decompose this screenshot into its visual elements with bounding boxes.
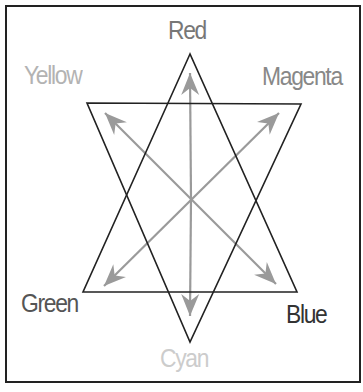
- label-cyan: Cyan: [160, 345, 208, 371]
- star-graphic: [0, 0, 363, 392]
- arrow-red: [181, 73, 199, 199]
- label-green: Green: [21, 290, 78, 316]
- arrow-shaft: [190, 73, 191, 199]
- label-blue: Blue: [286, 301, 327, 327]
- label-magenta: Magenta: [262, 63, 342, 89]
- label-yellow: Yellow: [24, 62, 81, 88]
- color-star-diagram: Red Yellow Magenta Green Blue Cyan: [0, 0, 363, 392]
- arrow-shaft: [190, 199, 191, 316]
- label-red: Red: [168, 17, 206, 43]
- arrow-cyan: [181, 199, 199, 316]
